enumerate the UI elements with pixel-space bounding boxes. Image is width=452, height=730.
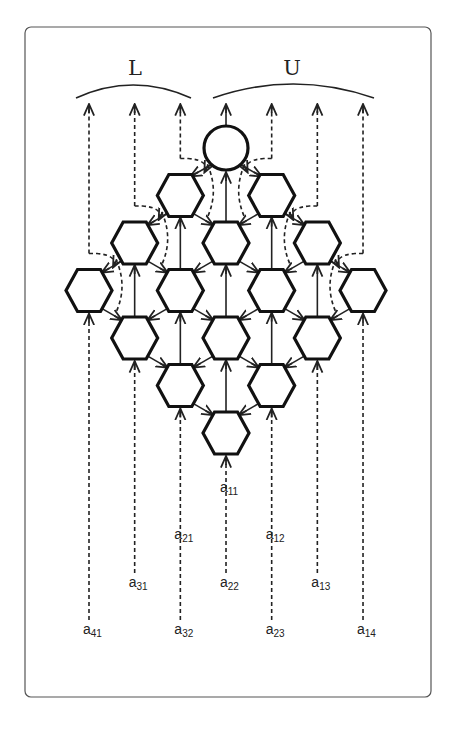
processing-cell-hex	[203, 317, 249, 359]
input-label-a14: a14	[357, 621, 376, 639]
route-bend-6	[338, 254, 363, 268]
group-label-l: L	[128, 56, 142, 80]
processing-cell-hex	[203, 412, 249, 454]
group-brace-l	[76, 85, 191, 98]
diagonal-arrow	[102, 308, 122, 320]
feedback-arc-5	[284, 212, 290, 265]
diagonal-arrow	[330, 308, 350, 320]
input-label-a11: a11	[220, 479, 239, 497]
processing-cell-hex	[203, 222, 249, 264]
processing-cell-hex	[294, 317, 340, 359]
processing-cell-hex	[66, 270, 112, 312]
diagonal-arrow	[193, 356, 213, 368]
processing-cell-hex	[249, 365, 295, 407]
processing-cell-hex	[112, 222, 158, 264]
feedback-arc-0	[116, 260, 122, 313]
processing-cell-hex	[249, 175, 295, 217]
diagonal-arrow	[147, 261, 167, 273]
group-label-u: U	[283, 56, 301, 80]
route-bend-0	[89, 254, 114, 268]
input-label-a22: a22	[220, 574, 239, 592]
input-label-a13: a13	[311, 574, 330, 592]
diagonal-arrow	[239, 356, 259, 368]
systolic-array-diagram: L U a11a21a12a31a22a13a41a32a23a14	[0, 0, 452, 730]
input-label-a21: a21	[174, 526, 193, 544]
diagonal-arrow	[239, 308, 259, 320]
route-bend-5	[292, 206, 317, 220]
diagonal-arrow	[239, 403, 259, 415]
feedback-arc-4	[239, 165, 245, 218]
diagonal-arrow	[147, 356, 167, 368]
processing-cell-hex	[157, 365, 203, 407]
diagonal-arrow	[284, 308, 304, 320]
output-node-circle	[204, 126, 248, 170]
processing-cell-hex	[157, 175, 203, 217]
input-label-a31: a31	[129, 574, 148, 592]
diagonal-arrow	[193, 308, 213, 320]
processing-cell-hex	[112, 317, 158, 359]
diagonal-arrow	[239, 213, 259, 225]
diagonal-arrow	[193, 403, 213, 415]
feedback-arc-2	[207, 165, 213, 218]
processing-cell-hex	[340, 270, 386, 312]
input-label-a32: a32	[174, 621, 193, 639]
input-label-a23: a23	[266, 621, 285, 639]
input-label-a41: a41	[83, 621, 102, 639]
feedback-arc-6	[330, 260, 336, 313]
diagonal-arrow	[147, 308, 167, 320]
diagonal-arrow	[193, 213, 213, 225]
processing-cell-hex	[249, 270, 295, 312]
diagonal-arrow	[239, 261, 259, 273]
route-bend-1	[135, 206, 160, 220]
processing-cell-hex	[157, 270, 203, 312]
diagonal-arrow	[193, 261, 213, 273]
input-label-a12: a12	[266, 526, 285, 544]
processing-cell-hex	[294, 222, 340, 264]
diagonal-arrow	[284, 261, 304, 273]
feedback-arc-1	[162, 212, 168, 265]
diagonal-arrow	[284, 356, 304, 368]
group-brace-u	[213, 84, 374, 98]
